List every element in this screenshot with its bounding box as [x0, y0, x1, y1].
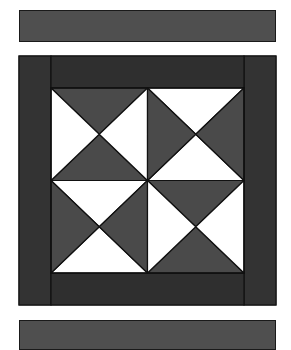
hourglass-block-bottom-left: [51, 181, 148, 274]
hourglass-block-top-right: [148, 88, 245, 181]
bottom-sashing-strip: [19, 320, 276, 350]
hourglass-block-bottom-right: [148, 181, 245, 274]
hourglass-block-top-left: [51, 88, 148, 181]
